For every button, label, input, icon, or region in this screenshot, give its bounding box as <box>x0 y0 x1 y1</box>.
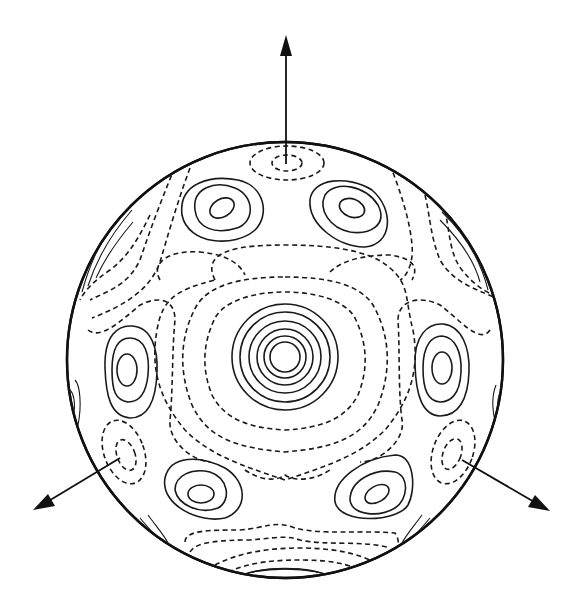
lower-right-axis-arrow <box>462 460 550 511</box>
arrowhead-icon <box>33 494 55 510</box>
arrowhead-icon <box>280 35 292 56</box>
sphere-contour-diagram <box>0 0 578 601</box>
sphere-outline <box>67 142 503 578</box>
arrowhead-icon <box>528 495 550 511</box>
